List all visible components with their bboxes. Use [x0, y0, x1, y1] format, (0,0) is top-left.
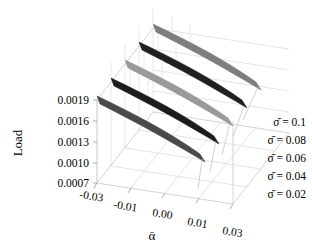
y-tick-label: 0.0010	[57, 157, 89, 169]
y-tick-label: 0.0013	[57, 136, 89, 148]
y-tick-label: 0.0019	[57, 94, 89, 106]
legend-item-sigma-0-02[interactable]: σ̄ = 0.02	[267, 188, 306, 200]
x-axis-title: ᾱ	[149, 228, 156, 243]
legend-item-sigma-0-1[interactable]: σ̄ = 0.1	[273, 116, 306, 128]
legend-item-sigma-0-04[interactable]: σ̄ = 0.04	[267, 170, 306, 182]
legend-item-sigma-0-06[interactable]: σ̄ = 0.06	[267, 152, 306, 164]
y-tick-label: 0.0007	[57, 177, 89, 189]
surface-plot-3d: 0.0019 0.0016 0.0013 0.0010 0.0007 Load …	[0, 0, 312, 246]
y-axis-title: Load	[10, 129, 25, 156]
y-tick-label: 0.0016	[57, 115, 89, 127]
chart-figure: 0.0019 0.0016 0.0013 0.0010 0.0007 Load …	[0, 0, 312, 246]
legend-item-sigma-0-08[interactable]: σ̄ = 0.08	[267, 134, 306, 146]
